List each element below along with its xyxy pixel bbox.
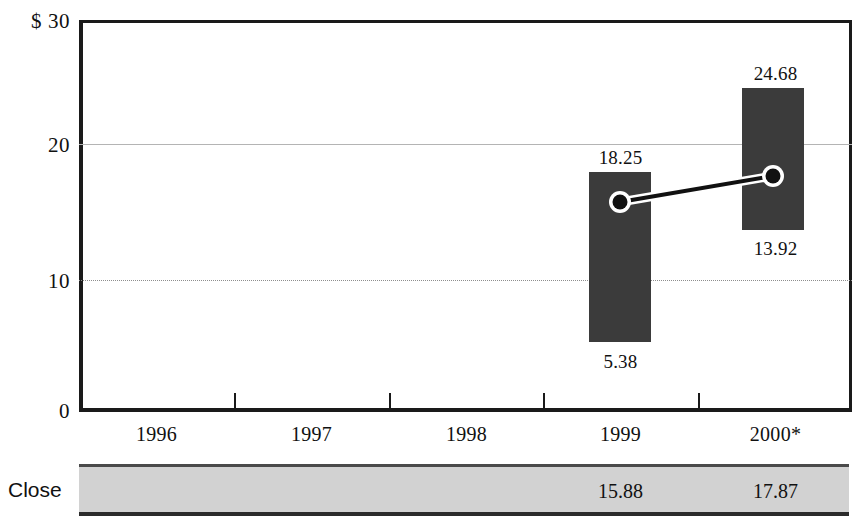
bar-low-label-2000: 13.92 xyxy=(698,239,853,259)
x-axis-label-1997: 1997 xyxy=(234,423,389,445)
gridline-20 xyxy=(79,144,852,145)
range-bar-1999 xyxy=(589,172,651,342)
close-value-2000: 17.87 xyxy=(698,480,853,502)
close-row-label: Close xyxy=(8,478,72,502)
y-axis-label-30: $30 xyxy=(31,11,70,32)
x-axis-tick-3 xyxy=(543,393,545,409)
bar-low-label-1999: 5.38 xyxy=(543,352,698,372)
y-axis-label-0: 0 xyxy=(59,401,70,422)
x-axis-label-1996: 1996 xyxy=(79,423,234,445)
close-value-1999: 15.88 xyxy=(543,480,698,502)
x-axis-tick-1 xyxy=(234,393,236,409)
stock-range-chart: $30 20 10 0 1996 1997 1998 1999 2000* 18… xyxy=(0,0,859,532)
x-axis-label-2000: 2000* xyxy=(698,423,853,445)
currency-symbol: $ xyxy=(31,9,42,33)
y-axis-value-30: 30 xyxy=(48,9,70,33)
y-axis-label-10: 10 xyxy=(48,271,70,292)
bar-high-label-1999: 18.25 xyxy=(543,148,698,168)
gridline-10 xyxy=(79,280,852,281)
x-axis-label-1999: 1999 xyxy=(543,423,698,445)
range-bar-2000 xyxy=(742,88,804,230)
x-axis-tick-2 xyxy=(389,393,391,409)
bar-high-label-2000: 24.68 xyxy=(698,64,853,84)
y-axis-label-20: 20 xyxy=(48,135,70,156)
x-axis-tick-4 xyxy=(698,393,700,409)
x-axis-label-1998: 1998 xyxy=(389,423,544,445)
